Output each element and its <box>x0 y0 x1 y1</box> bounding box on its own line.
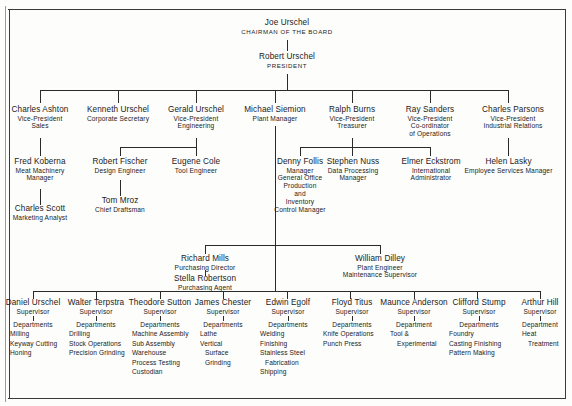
manager-name: Charles Scott <box>2 204 78 214</box>
supervisor-dept-label: Departments <box>256 321 320 329</box>
exec-drop-7 <box>508 90 509 103</box>
manager-title-1: Marketing Analyst <box>2 214 78 222</box>
node-exec-charles-ashton: Charles Ashton Vice-President Sales <box>0 105 80 130</box>
dept-item: Knife Operations <box>323 329 384 339</box>
follis-line-5: Control Manager <box>262 206 338 214</box>
president-name: Robert Urschel <box>229 52 345 62</box>
supervisor-name: Edwin Egolf <box>256 298 320 308</box>
manager-name: Stella Robertson <box>160 274 250 284</box>
manager-name: Richard Mills <box>160 254 250 264</box>
dept-item: Shipping <box>260 367 320 377</box>
supervisor-dept-list: Milling Keyway Cutting Honing <box>0 329 66 358</box>
manager-title-1: Plant Engineer <box>326 264 434 272</box>
exec-name: Michael Siemion <box>237 105 313 115</box>
exec-title-1: Vice-President <box>158 115 234 123</box>
exec-name: Ralph Burns <box>316 105 388 115</box>
supervisor-dept-list: Drilling Stock Operations Precision Grin… <box>62 329 130 358</box>
node-supervisor-clifford-stump: Clifford Stump Supervisor Departments Fo… <box>444 298 514 358</box>
page-frame-bottom-border <box>8 398 566 399</box>
supervisor-name: James Chester <box>190 298 256 308</box>
supervisor-role: Supervisor <box>190 308 256 316</box>
dept-item: Honing <box>10 348 66 358</box>
follis-line-3: and <box>262 190 338 198</box>
exec-title-2: Industrial Relations <box>464 122 562 130</box>
chairman-title: CHAIRMAN OF THE BOARD <box>229 28 345 35</box>
manager-title-1: Design Engineer <box>82 167 158 175</box>
dept-item: Casting Finishing <box>449 339 514 349</box>
manager-title-1: Meat Machinery <box>2 167 78 175</box>
exec-name: Ray Sanders <box>394 105 466 115</box>
dept-item: Process Testing <box>132 358 196 368</box>
node-exec-ray-sanders: Ray Sanders Vice-President Co-ordinator … <box>394 105 466 138</box>
dept-item: Stainless Steel <box>260 348 320 358</box>
org-chart-page: Joe Urschel CHAIRMAN OF THE BOARD Robert… <box>0 0 572 406</box>
exec-title-1: Corporate Secretary <box>76 115 160 123</box>
exec-drop-5 <box>352 90 353 103</box>
node-exec-ralph-burns: Ralph Burns Vice-President Treasurer <box>316 105 388 130</box>
supervisor-name: Theodore Sutton <box>124 298 196 308</box>
exec-title-1: Vice-President <box>0 115 80 123</box>
node-stella-robertson: Stella Robertson Purchasing Agent <box>160 274 250 291</box>
manager-title-1: Employee Services Manager <box>452 167 565 175</box>
exec-name: Charles Parsons <box>464 105 562 115</box>
node-exec-michael-siemion: Michael Siemion Plant Manager <box>237 105 313 122</box>
exec-name: Charles Ashton <box>0 105 80 115</box>
node-supervisor-arthur-hill: Arthur Hill Supervisor Department Heat T… <box>510 298 570 348</box>
supervisor-name: Walter Terpstra <box>62 298 130 308</box>
dept-item: Punch Press <box>323 339 384 349</box>
node-eugene-cole: Eugene Cole Tool Engineer <box>158 157 234 174</box>
dept-item: Milling <box>10 329 66 339</box>
dept-item: Fabrication <box>260 358 320 368</box>
supervisor-dept-tick <box>414 316 415 321</box>
node-supervisor-edwin-egolf: Edwin Egolf Supervisor Departments Weldi… <box>256 298 320 377</box>
exec-name: Gerald Urschel <box>158 105 234 115</box>
node-exec-charles-parsons: Charles Parsons Vice-President Industria… <box>464 105 562 130</box>
exec-title-2: Engineering <box>158 122 234 130</box>
exec-drop-6 <box>430 90 431 103</box>
manager-name: Stephen Nuss <box>316 157 390 167</box>
dept-item: Vertical <box>200 339 256 349</box>
dept-item: Machine Assembly <box>132 329 196 339</box>
exec-drop-4 <box>275 90 276 103</box>
eng-drop-fischer <box>120 147 121 156</box>
exec-drop-3 <box>196 90 197 103</box>
node-fred-koberna: Fred Koberna Meat Machinery Manager <box>2 157 78 182</box>
exec-title-1: Vice-President <box>316 115 388 123</box>
supervisor-dept-list: Tool & Experimental <box>376 329 452 348</box>
supervisor-role: Supervisor <box>256 308 320 316</box>
supervisor-role: Supervisor <box>320 308 384 316</box>
manager-name: Tom Mroz <box>82 196 158 206</box>
dept-item: Heat <box>522 329 570 339</box>
supervisor-dept-label: Departments <box>444 321 514 329</box>
exec-title-1: Plant Manager <box>237 115 313 123</box>
supervisor-dept-label: Department <box>376 321 452 329</box>
president-title: PRESIDENT <box>229 62 345 69</box>
exec-title-1: Vice-President <box>464 115 562 123</box>
supervisor-dept-tick <box>352 316 353 321</box>
node-supervisor-maunce-anderson: Maunce Anderson Supervisor Department To… <box>376 298 452 348</box>
exec-drop-1 <box>40 90 41 103</box>
dept-item: Welding <box>260 329 320 339</box>
supervisor-name: Arthur Hill <box>510 298 570 308</box>
supervisor-dept-tick <box>479 316 480 321</box>
dept-item: Precision Grinding <box>69 348 130 358</box>
connector-parsons-to-lasky <box>508 138 509 156</box>
supervisor-dept-list: Lathe Vertical Surface Grinding <box>190 329 256 367</box>
supervisor-dept-list: Machine Assembly Sub Assembly Warehouse … <box>124 329 196 377</box>
supervisor-dept-label: Departments <box>320 321 384 329</box>
connector-ashton-to-koberna <box>40 138 41 156</box>
exec-title-3: of Operations <box>394 130 466 138</box>
exec-drop-2 <box>118 90 119 103</box>
node-supervisor-daniel-urschel: Daniel Urschel Supervisor Departments Mi… <box>0 298 66 358</box>
supervisor-role: Supervisor <box>510 308 570 316</box>
supervisor-dept-label: Departments <box>124 321 196 329</box>
supervisor-dept-label: Department <box>510 321 570 329</box>
dept-item: Warehouse <box>132 348 196 358</box>
manager-title-1: Chief Draftsman <box>82 206 158 214</box>
dept-item: Foundry <box>449 329 514 339</box>
supervisor-dept-list: Welding Finishing Stainless Steel Fabric… <box>256 329 320 377</box>
node-president: Robert Urschel PRESIDENT <box>229 52 345 69</box>
node-supervisor-walter-terpstra: Walter Terpstra Supervisor Departments D… <box>62 298 130 358</box>
dept-item: Surface <box>200 348 256 358</box>
dept-item: Stock Operations <box>69 339 130 349</box>
